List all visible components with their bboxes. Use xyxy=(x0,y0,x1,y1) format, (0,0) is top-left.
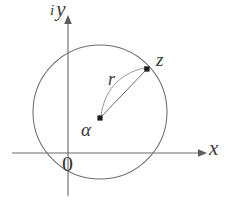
x-axis-label: x xyxy=(209,138,218,159)
radius-label: r xyxy=(108,70,115,88)
point-marker-z xyxy=(144,66,149,71)
point-label-alpha: α xyxy=(81,120,91,139)
y-axis-label: iy xyxy=(50,0,67,20)
point-marker-alpha xyxy=(97,115,102,120)
x-axis-arrowhead-icon xyxy=(198,149,207,157)
origin-label: 0 xyxy=(62,153,73,175)
disk-circle xyxy=(33,45,167,179)
figure-canvas xyxy=(0,0,232,205)
y-axis-label-text: y xyxy=(56,0,66,21)
complex-plane-figure: iy x 0 z α r xyxy=(0,0,232,205)
x-axis xyxy=(12,149,207,157)
point-label-z: z xyxy=(156,50,163,69)
